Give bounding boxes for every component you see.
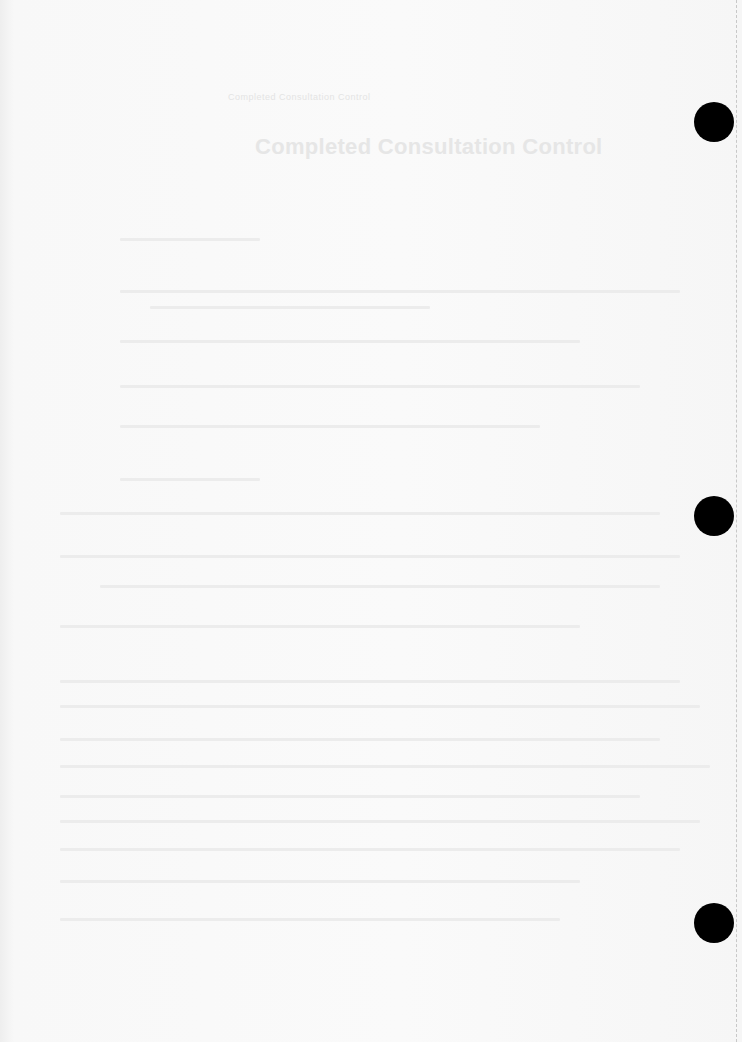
punch-hole <box>694 496 734 536</box>
faded-text-line <box>60 848 680 851</box>
faded-text-line <box>60 820 700 823</box>
faded-text-line <box>60 738 660 741</box>
faded-text-line <box>60 625 580 628</box>
scanned-page: Completed Consultation Control Completed… <box>0 0 742 1042</box>
faded-text-line <box>60 705 700 708</box>
faded-text-line <box>120 340 580 343</box>
faded-text-line <box>60 918 560 921</box>
faded-text-line <box>120 385 640 388</box>
faded-text-line <box>120 238 260 241</box>
faded-text-line <box>120 478 260 481</box>
header-text: Completed Consultation Control <box>228 92 458 102</box>
punch-hole <box>694 102 734 142</box>
faded-text-line <box>60 880 580 883</box>
page-title: Completed Consultation Control <box>255 134 603 160</box>
faded-text-line <box>60 680 680 683</box>
faded-text-line <box>100 585 660 588</box>
faded-text-line <box>120 425 540 428</box>
faded-text-line <box>60 795 640 798</box>
faded-text-line <box>60 512 660 515</box>
faded-text-line <box>120 290 680 293</box>
punch-hole <box>694 903 734 943</box>
faded-text-line <box>60 765 710 768</box>
faded-text-line <box>60 555 680 558</box>
faded-text-line <box>150 306 430 309</box>
margin-rule <box>736 0 737 1042</box>
